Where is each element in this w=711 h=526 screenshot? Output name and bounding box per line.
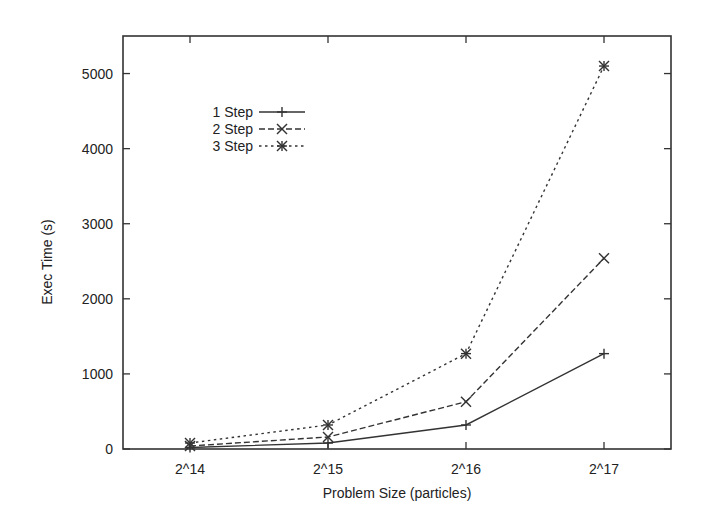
data-point-marker-asterisk-icon	[461, 349, 471, 359]
legend-item: 2 Step	[213, 121, 305, 137]
data-point-marker-cross-icon	[461, 397, 471, 407]
x-tick-label: 2^16	[451, 461, 481, 477]
x-axis-title: Problem Size (particles)	[323, 485, 472, 501]
data-point-marker-plus-icon	[323, 438, 333, 448]
x-tick-label: 2^14	[175, 461, 205, 477]
y-axis-title: Exec Time (s)	[39, 219, 55, 305]
y-axis: 010002000300040005000	[82, 66, 671, 457]
data-point-marker-cross-icon	[599, 253, 609, 263]
legend-item: 3 Step	[213, 138, 305, 154]
legend-marker-asterisk-icon	[277, 141, 287, 151]
data-point-marker-plus-icon	[599, 349, 609, 359]
y-tick-label: 4000	[82, 141, 113, 157]
legend-label: 1 Step	[213, 104, 254, 120]
data-point-marker-asterisk-icon	[185, 438, 195, 448]
y-tick-label: 5000	[82, 66, 113, 82]
x-axis: 2^142^152^162^17	[175, 36, 619, 477]
legend-label: 3 Step	[213, 138, 254, 154]
data-point-marker-asterisk-icon	[323, 420, 333, 430]
series-1-step	[185, 349, 609, 453]
x-tick-label: 2^17	[589, 461, 619, 477]
legend-marker-plus-icon	[277, 107, 287, 117]
line-chart: 010002000300040005000 2^142^152^162^17 1…	[0, 0, 711, 526]
data-point-marker-plus-icon	[461, 420, 471, 430]
y-tick-label: 0	[105, 441, 113, 457]
x-tick-label: 2^15	[313, 461, 343, 477]
series-line	[190, 354, 604, 448]
y-tick-label: 1000	[82, 366, 113, 382]
legend: 1 Step2 Step3 Step	[213, 104, 305, 154]
data-point-marker-asterisk-icon	[599, 61, 609, 71]
series-line	[190, 258, 604, 446]
y-tick-label: 3000	[82, 216, 113, 232]
legend-label: 2 Step	[213, 121, 254, 137]
series-2-step	[185, 253, 609, 451]
y-tick-label: 2000	[82, 291, 113, 307]
legend-item: 1 Step	[213, 104, 305, 120]
